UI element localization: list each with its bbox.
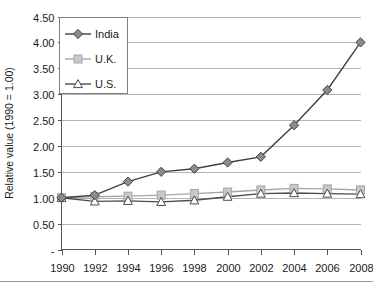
x-tick-label: 2006 [315,262,339,274]
y-tick-label: 1.50 [33,167,54,179]
legend-marker-uk [74,55,82,63]
y-tick-label: 0.50 [33,219,54,231]
x-tick-label: 2000 [216,262,240,274]
y-axis-title: Relative value (1990 = 1.00) [3,67,15,199]
x-tick-label: 1998 [182,262,206,274]
y-tick-label: 4.00 [33,37,54,49]
legend-label-us: U.S. [95,78,116,90]
x-tick-label: 1992 [83,262,107,274]
series-marker-india [223,158,232,167]
legend-label-india: India [95,28,120,40]
y-tick-label: 3.00 [33,89,54,101]
x-tick-label: 2002 [249,262,273,274]
y-tick-label: 4.50 [33,12,54,24]
y-tick-label: 3.50 [33,63,54,75]
x-tick-label: 2004 [282,262,306,274]
y-tick-label: 2.00 [33,141,54,153]
series-marker-india [356,38,365,47]
series-marker-india [190,164,199,173]
y-tick-label: 1.00 [33,193,54,205]
y-tick-labels: 4.504.003.503.002.502.001.501.000.50- [33,12,55,257]
line-chart: 4.504.003.503.002.502.001.501.000.50- 19… [0,0,373,285]
x-tick-label: 1994 [116,262,140,274]
x-tick-label: 1990 [50,262,74,274]
chart-canvas: 4.504.003.503.002.502.001.501.000.50- 19… [0,0,373,285]
x-tick-marks [63,250,362,255]
y-tick-label: - [51,245,55,257]
legend-label-uk: U.K. [95,53,116,65]
y-tick-label: 2.50 [33,115,54,127]
chart-legend: IndiaU.K.U.S. [60,18,128,94]
x-tick-label: 1996 [149,262,173,274]
x-tick-labels: 1990199219941996199820002002200420062008 [50,262,373,274]
x-tick-label: 2008 [349,262,373,274]
series-line-us [62,193,361,202]
series-marker-india [157,167,166,176]
series-marker-india [123,177,132,186]
